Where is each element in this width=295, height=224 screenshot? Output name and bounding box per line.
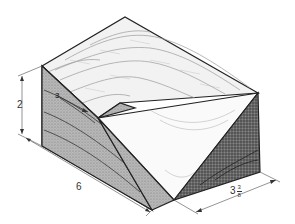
width-fraction: 38 <box>237 184 242 198</box>
isometric-block-drawing <box>0 0 295 224</box>
length-dimension-label: 6 <box>76 182 82 192</box>
width-whole: 3 <box>230 185 236 196</box>
width-dimension-label: 338 <box>230 184 242 198</box>
face-mark-label: 3 <box>55 92 59 100</box>
height-dimension-label: 2 <box>17 100 23 110</box>
width-numerator: 3 <box>237 184 240 190</box>
width-denominator: 8 <box>237 192 240 198</box>
